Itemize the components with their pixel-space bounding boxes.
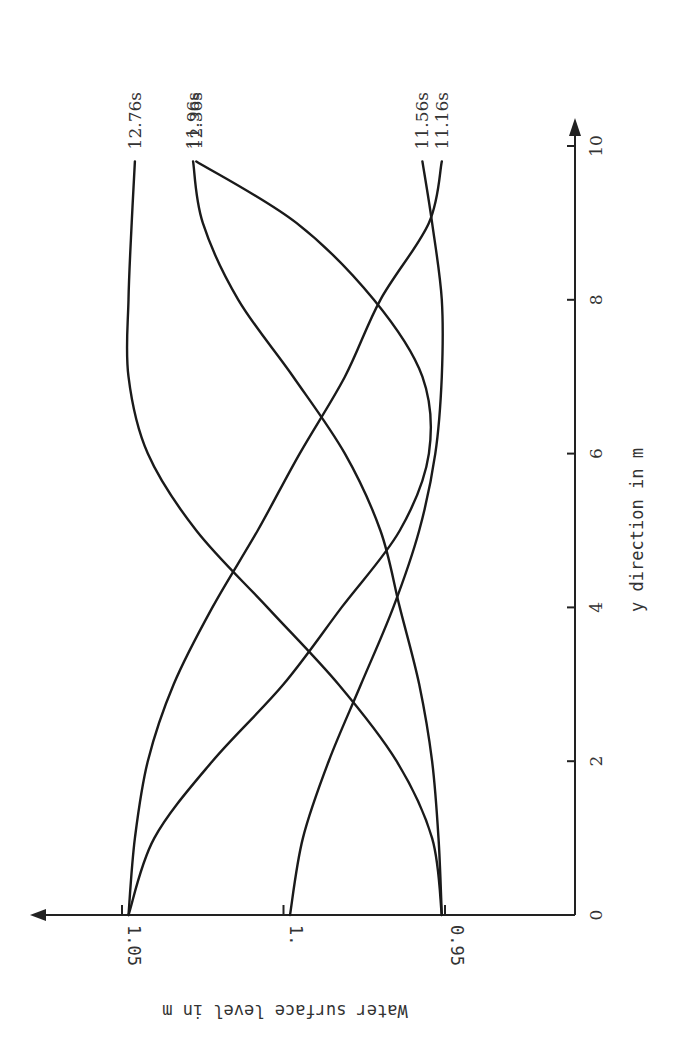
ydir-tick-label: 6 (586, 448, 606, 459)
curve-label: 11.96s (183, 92, 203, 149)
level-tick-label: 1.05 (124, 925, 144, 966)
curve-11-56s (290, 161, 443, 915)
rotated-line-chart: 1.051.0.95 0246810 12.76s12.36s11.16s11.… (0, 0, 679, 1063)
level-axis-arrow-icon (30, 909, 46, 921)
ydir-ticks: 0246810 (567, 135, 606, 920)
curves (127, 161, 443, 915)
curve-label: 11.16s (432, 92, 452, 149)
curve-11-96s (193, 161, 442, 915)
ydir-axis-arrow-icon (569, 118, 581, 136)
curve-label: 12.76s (125, 92, 145, 149)
curve-label: 11.56s (412, 92, 432, 149)
ydir-tick-label: 2 (586, 756, 606, 767)
curve-labels: 12.76s12.36s11.16s11.96s11.56s (125, 92, 452, 149)
ydir-tick-label: 0 (586, 910, 606, 921)
level-tick-label: 0.95 (447, 925, 467, 966)
y-axis-label: Water surface level in m (162, 1001, 408, 1021)
x-axis-label: y direction in m (627, 448, 647, 612)
level-tick-label: 1. (286, 925, 306, 945)
ydir-tick-label: 4 (586, 602, 606, 613)
ydir-tick-label: 8 (586, 294, 606, 305)
curve-12-36s (129, 161, 431, 915)
ydir-tick-label: 10 (586, 135, 606, 157)
